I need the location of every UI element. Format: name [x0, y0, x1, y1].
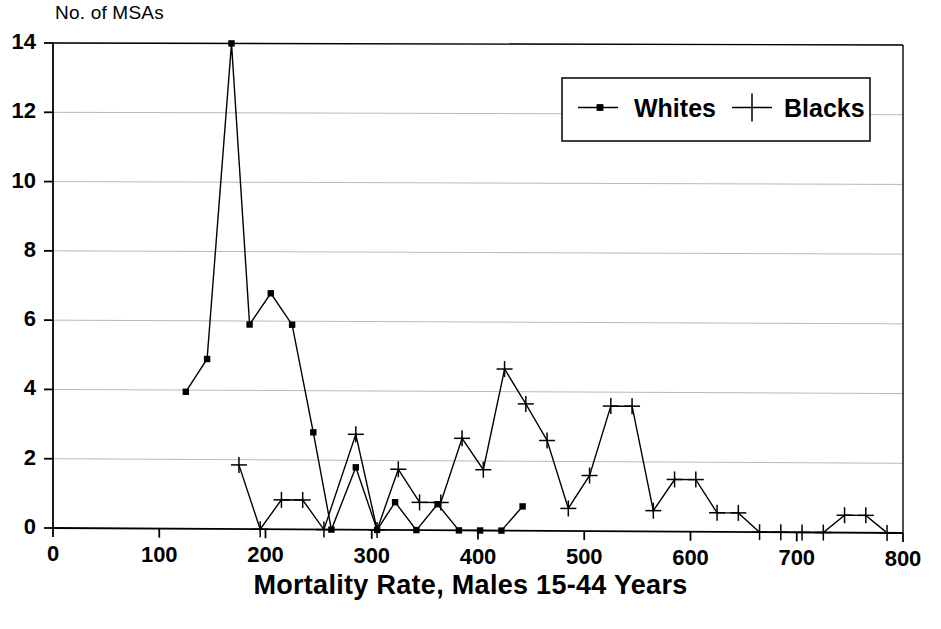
legend-marker-square: [597, 104, 604, 111]
x-tick-label: 0: [13, 541, 93, 567]
gridline: [53, 251, 903, 254]
marker-square: [310, 429, 316, 435]
chart-legend: WhitesBlacks: [562, 78, 870, 141]
marker-square: [353, 464, 359, 470]
y-axis-ticks: [44, 43, 53, 528]
gridline: [53, 389, 903, 393]
y-tick-label: 14: [0, 29, 36, 55]
y-tick-label: 12: [0, 98, 36, 124]
y-tick-label: 6: [0, 306, 36, 332]
y-tick-label: 8: [0, 237, 36, 263]
marker-square: [246, 321, 252, 327]
marker-square: [392, 499, 398, 505]
marker-square: [498, 527, 504, 533]
marker-square: [204, 356, 210, 362]
legend-label: Whites: [634, 94, 716, 122]
x-tick-label: 500: [544, 544, 624, 570]
marker-square: [228, 40, 234, 46]
plot-canvas: WhitesBlacks: [0, 0, 941, 629]
x-tick-label: 700: [757, 545, 837, 571]
series-line: [186, 43, 523, 530]
marker-square: [268, 290, 274, 296]
x-tick-label: 200: [226, 542, 306, 568]
gridline: [53, 182, 903, 185]
series-blacks: [231, 361, 895, 541]
x-axis-title: Mortality Rate, Males 15-44 Years: [0, 570, 941, 601]
gridline: [53, 320, 903, 324]
y-tick-label: 10: [0, 168, 36, 194]
marker-square: [519, 503, 525, 509]
marker-square: [289, 322, 295, 328]
x-tick-label: 100: [119, 542, 199, 568]
marker-square: [456, 527, 462, 533]
plot-top-edge: [53, 43, 903, 45]
marker-square: [413, 527, 419, 533]
marker-square: [477, 527, 483, 533]
legend-entry-blacks[interactable]: Blacks: [732, 94, 865, 122]
marker-square: [183, 389, 189, 395]
y-tick-label: 0: [0, 514, 36, 540]
x-tick-label: 300: [332, 543, 412, 569]
legend-label: Blacks: [784, 94, 865, 122]
x-tick-label: 400: [438, 544, 518, 570]
chart-figure: No. of MSAs Mortality Rate, Males 15-44 …: [0, 0, 941, 629]
y-tick-label: 2: [0, 445, 36, 471]
x-tick-label: 600: [651, 545, 731, 571]
y-tick-label: 4: [0, 375, 36, 401]
y-axis-label: No. of MSAs: [55, 2, 164, 24]
x-tick-label: 800: [863, 546, 941, 572]
